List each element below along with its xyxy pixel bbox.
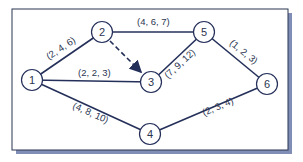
node-label-2: 2 — [99, 26, 105, 38]
node-4: 4 — [140, 124, 161, 145]
edge-label-2-5: (4, 6, 7) — [137, 16, 170, 27]
node-6: 6 — [257, 74, 278, 95]
edge-label-1-3: (2, 2, 3) — [78, 67, 111, 78]
node-label-5: 5 — [201, 26, 207, 38]
node-label-6: 6 — [264, 78, 270, 90]
node-2: 2 — [92, 22, 113, 43]
node-3: 3 — [141, 72, 162, 93]
node-1: 1 — [22, 70, 43, 91]
node-5: 5 — [194, 22, 215, 43]
node-label-1: 1 — [29, 74, 35, 86]
node-label-4: 4 — [147, 128, 153, 140]
network-diagram: (2, 4, 6) (2, 2, 3) (4, 8, 10) (4, 6, 7)… — [0, 0, 303, 162]
node-label-3: 3 — [148, 76, 154, 88]
